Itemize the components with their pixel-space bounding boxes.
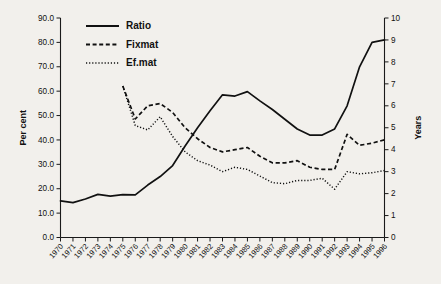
y-tick-label-left: 10.0 (38, 209, 54, 218)
series-group (61, 40, 385, 203)
y-tick-label-left: 50.0 (38, 111, 54, 120)
y-tick-label-right: 0 (391, 233, 396, 242)
series-line-fixmat (123, 86, 385, 169)
legend: RatioFixmatEf.mat (86, 20, 159, 68)
y-tick-label-left: 80.0 (38, 38, 54, 47)
y-tick-label-left: 90.0 (38, 14, 54, 23)
y-tick-label-right: 3 (391, 167, 396, 176)
y-tick-label-right: 6 (391, 101, 396, 110)
series-line-ratio (61, 40, 385, 203)
y-tick-label-left: 30.0 (38, 160, 54, 169)
y-axis-title-right: Years (413, 116, 423, 140)
y-tick-label-left: 60.0 (38, 87, 54, 96)
y-tick-label-left: 20.0 (38, 184, 54, 193)
y-axis-left: 0.010.020.030.040.050.060.070.080.090.0 (38, 14, 60, 243)
y-tick-label-right: 4 (391, 145, 396, 154)
y-tick-label-right: 10 (391, 14, 401, 23)
y-tick-label-right: 2 (391, 189, 396, 198)
x-axis: 1970197119721973197419751976197719781979… (47, 238, 389, 261)
y-tick-label-right: 5 (391, 123, 396, 132)
chart-container: 0.010.020.030.040.050.060.070.080.090.00… (0, 0, 441, 284)
y-tick-label-left: 40.0 (38, 136, 54, 145)
y-tick-label-right: 8 (391, 58, 396, 67)
y-tick-label-right: 7 (391, 80, 396, 89)
series-line-efmat (123, 86, 385, 189)
y-tick-label-right: 9 (391, 36, 396, 45)
legend-label-efmat: Ef.mat (126, 57, 157, 68)
y-tick-label-right: 1 (391, 211, 396, 220)
y-tick-label-left: 70.0 (38, 62, 54, 71)
y-axis-title-left: Per cent (18, 110, 28, 146)
x-tick-label: 1996 (371, 242, 389, 261)
y-tick-label-left: 0.0 (43, 233, 55, 242)
line-chart: 0.010.020.030.040.050.060.070.080.090.00… (0, 0, 441, 284)
legend-label-ratio: Ratio (126, 20, 151, 31)
y-axis-right: 012345678910 (385, 14, 401, 243)
legend-label-fixmat: Fixmat (126, 39, 159, 50)
